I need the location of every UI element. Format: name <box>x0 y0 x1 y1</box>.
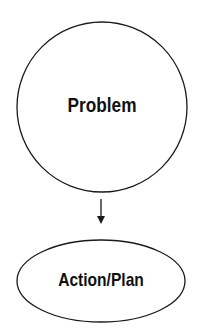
action-plan-label: Action/Plan <box>48 269 155 291</box>
problem-label: Problem <box>61 93 143 117</box>
arrow-down-icon <box>97 199 105 224</box>
